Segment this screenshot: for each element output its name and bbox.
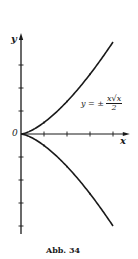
curve-point-mark (66, 101, 68, 103)
equation-fraction: x√x 2 (106, 95, 122, 112)
equation-annotation: y = ± x√x 2 (81, 95, 122, 112)
curve-point-mark (66, 166, 68, 168)
lower-branch-curve (21, 134, 113, 226)
equation-lhs: y = ± (81, 99, 104, 108)
origin-label: 0 (12, 128, 18, 138)
figure-caption: Abb. 34 (0, 245, 126, 255)
x-axis-label: x (120, 135, 126, 146)
equation-denominator: 2 (112, 104, 117, 112)
y-axis-label: y (11, 33, 17, 44)
plot-area (0, 0, 138, 259)
curve-point-mark (89, 193, 91, 195)
curve-point-mark (43, 122, 45, 124)
y-axis-arrow-icon (19, 33, 23, 40)
curve-point-mark (89, 73, 91, 75)
axes (19, 33, 130, 234)
semicubical-parabola-figure: y x 0 y = ± x√x 2 Abb. 34 (0, 0, 138, 259)
curve-point-mark (43, 145, 45, 147)
upper-branch-curve (21, 42, 113, 134)
